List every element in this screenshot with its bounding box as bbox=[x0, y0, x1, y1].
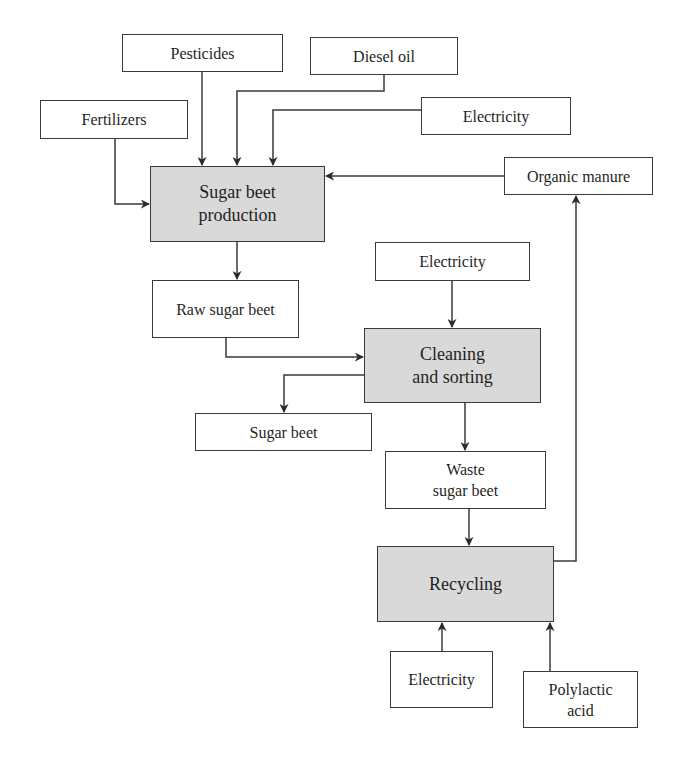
node-label: Sugar beet production bbox=[199, 181, 277, 227]
node-pesticides: Pesticides bbox=[122, 34, 283, 72]
node-waste-sugar-beet: Waste sugar beet bbox=[385, 451, 546, 509]
node-label: Polylactic acid bbox=[549, 679, 613, 721]
node-fertilizers: Fertilizers bbox=[40, 100, 188, 139]
node-electricity-1: Electricity bbox=[421, 97, 571, 135]
node-label: Fertilizers bbox=[82, 109, 147, 130]
node-label: Diesel oil bbox=[353, 46, 415, 67]
node-cleaning-and-sorting: Cleaning and sorting bbox=[364, 328, 541, 403]
node-label: Electricity bbox=[463, 106, 530, 127]
node-label: Waste sugar beet bbox=[433, 459, 498, 501]
edge-diesel-production bbox=[237, 75, 384, 165]
node-sugar-beet: Sugar beet bbox=[195, 413, 372, 451]
node-label: Organic manure bbox=[527, 166, 630, 187]
node-organic-manure: Organic manure bbox=[504, 157, 653, 195]
node-label: Electricity bbox=[419, 251, 486, 272]
node-diesel-oil: Diesel oil bbox=[310, 37, 458, 75]
node-sugar-beet-production: Sugar beet production bbox=[150, 166, 325, 242]
node-label: Recycling bbox=[429, 573, 502, 596]
node-recycling: Recycling bbox=[377, 546, 554, 622]
edge-raw-cleaning bbox=[226, 338, 363, 357]
edge-electricity1-production bbox=[273, 110, 421, 165]
node-polylactic-acid: Polylactic acid bbox=[523, 671, 638, 728]
node-label: Sugar beet bbox=[250, 422, 318, 443]
edge-fertilizers-production bbox=[115, 139, 149, 204]
node-label: Pesticides bbox=[171, 43, 235, 64]
node-electricity-3: Electricity bbox=[390, 651, 493, 708]
node-label: Raw sugar beet bbox=[176, 299, 275, 320]
edge-cleaning-sugarbeet bbox=[284, 375, 364, 412]
node-label: Cleaning and sorting bbox=[412, 343, 493, 389]
node-raw-sugar-beet: Raw sugar beet bbox=[152, 280, 299, 338]
node-label: Electricity bbox=[408, 669, 475, 690]
node-electricity-2: Electricity bbox=[375, 242, 530, 281]
flow-diagram: Pesticides Diesel oil Fertilizers Electr… bbox=[0, 0, 685, 765]
edge-recycling-manure bbox=[554, 196, 576, 561]
